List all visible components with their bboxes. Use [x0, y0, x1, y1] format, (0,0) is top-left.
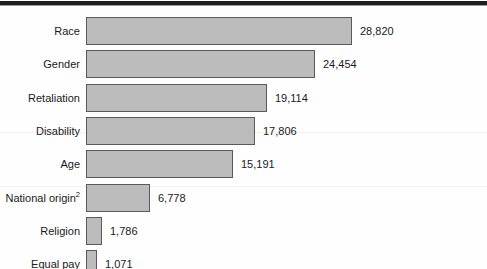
category-label: National origin2	[0, 184, 80, 212]
bar-row: Age15,191	[0, 150, 487, 178]
bar-value-label: 19,114	[275, 84, 308, 112]
bar	[86, 217, 102, 245]
bar-row: Disability17,806	[0, 117, 487, 145]
bar-chart: Race28,820Gender24,454Retaliation19,114D…	[0, 0, 487, 269]
bar-row: National origin26,778	[0, 184, 487, 212]
footnote-marker: 2	[76, 190, 80, 199]
bar	[86, 50, 315, 78]
bar	[86, 17, 352, 45]
plot-area: Race28,820Gender24,454Retaliation19,114D…	[0, 14, 487, 269]
bar-value-label: 17,806	[263, 117, 297, 145]
category-label: Gender	[0, 50, 80, 78]
bar-row: Retaliation19,114	[0, 84, 487, 112]
page-top-rule-shadow	[0, 5, 487, 6]
category-label: Disability	[0, 117, 80, 145]
bar-row: Equal pay1,071	[0, 250, 487, 269]
category-label: Retaliation	[0, 84, 80, 112]
bar	[86, 250, 97, 269]
bar-row: Race28,820	[0, 17, 487, 45]
bar-row: Religion1,786	[0, 217, 487, 245]
category-label: Religion	[0, 217, 80, 245]
bar	[86, 117, 255, 145]
bar	[86, 184, 150, 212]
category-label: Race	[0, 17, 80, 45]
bar	[86, 150, 233, 178]
bar-value-label: 28,820	[360, 17, 394, 45]
bar-value-label: 1,071	[105, 250, 133, 269]
category-label: Equal pay	[0, 250, 80, 269]
bar-value-label: 6,778	[158, 184, 186, 212]
bar-value-label: 24,454	[323, 50, 357, 78]
category-label: Age	[0, 150, 80, 178]
bar-value-label: 15,191	[241, 150, 275, 178]
bar-value-label: 1,786	[110, 217, 138, 245]
bar	[86, 84, 267, 112]
bar-row: Gender24,454	[0, 50, 487, 78]
